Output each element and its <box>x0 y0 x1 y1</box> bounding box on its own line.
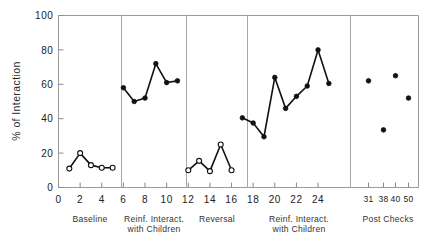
x-tick-label-16: 16 <box>225 194 237 205</box>
data-point <box>154 61 159 66</box>
plot-frame <box>59 16 419 188</box>
x-tick-label-10: 10 <box>160 194 172 205</box>
x-tick-label-2: 2 <box>77 194 83 205</box>
data-point <box>229 168 234 173</box>
data-point <box>240 116 245 121</box>
data-point <box>88 163 93 168</box>
y-tick-label-40: 40 <box>41 113 53 124</box>
x-tick-label-4: 4 <box>99 194 105 205</box>
x-tick-label-post-40: 40 <box>390 194 400 204</box>
x-tick-label-12: 12 <box>182 194 194 205</box>
y-tick-label-0: 0 <box>47 182 53 193</box>
data-point <box>99 165 104 170</box>
data-point <box>294 94 299 99</box>
y-axis-tick-labels: 020406080100 <box>35 10 54 193</box>
data-point <box>218 142 223 147</box>
data-point <box>132 99 137 104</box>
y-tick-label-60: 60 <box>41 79 53 90</box>
phase-label-1: Baseline <box>73 214 108 224</box>
data-point <box>393 73 398 78</box>
y-axis-title: % of Interaction <box>10 61 22 140</box>
x-tick-label-18: 18 <box>247 194 259 205</box>
data-point <box>273 75 278 80</box>
data-point <box>305 84 310 89</box>
y-tick-label-100: 100 <box>35 10 54 21</box>
data-point <box>121 85 126 90</box>
data-point <box>316 48 321 53</box>
y-axis-ticks <box>59 16 64 188</box>
x-tick-label-24: 24 <box>312 194 324 205</box>
data-point <box>381 128 386 133</box>
phase-label-4-line2: with Children <box>272 224 326 234</box>
x-tick-label-14: 14 <box>204 194 216 205</box>
data-point <box>251 121 256 126</box>
x-tick-label-6: 6 <box>120 194 126 205</box>
data-point <box>197 158 202 163</box>
x-tick-label-post-50: 50 <box>403 194 413 204</box>
data-point <box>186 168 191 173</box>
x-tick-label-post-31: 31 <box>363 194 373 204</box>
x-axis-tick-labels: 02468101214161820222431384050 <box>55 194 413 205</box>
data-point <box>262 134 267 139</box>
phase-label-2-line2: with Children <box>127 224 181 234</box>
chart-canvas: 020406080100 024681012141618202224313840… <box>0 0 433 245</box>
data-point <box>164 80 169 85</box>
x-tick-label-8: 8 <box>142 194 148 205</box>
x-tick-label-post-38: 38 <box>378 194 388 204</box>
data-point <box>327 81 332 86</box>
data-point <box>283 106 288 111</box>
data-point <box>175 79 180 84</box>
data-point <box>67 166 72 171</box>
data-point <box>110 165 115 170</box>
series-lines <box>69 50 329 171</box>
phase-label-2: Reinf. Interact. <box>124 214 184 224</box>
chart-figure: 020406080100 024681012141618202224313840… <box>0 0 433 245</box>
phase-label-3: Reversal <box>199 214 235 224</box>
phase-label-5: Post Checks <box>363 214 414 224</box>
x-tick-label-20: 20 <box>269 194 281 205</box>
phase-label-4: Reinf. Interact. <box>269 214 329 224</box>
data-point <box>207 169 212 174</box>
x-tick-label-22: 22 <box>290 194 302 205</box>
data-point <box>406 96 411 101</box>
data-point <box>143 96 148 101</box>
series-line-3 <box>188 145 231 172</box>
y-tick-label-20: 20 <box>41 148 53 159</box>
phase-labels: BaselineReinf. Interact.with ChildrenRev… <box>73 214 414 234</box>
y-tick-label-80: 80 <box>41 45 53 56</box>
x-axis-ticks <box>59 183 409 188</box>
data-point <box>366 79 371 84</box>
series-markers <box>67 48 411 174</box>
phase-divider-lines <box>122 16 351 188</box>
data-point <box>78 151 83 156</box>
x-tick-label-0: 0 <box>55 194 61 205</box>
